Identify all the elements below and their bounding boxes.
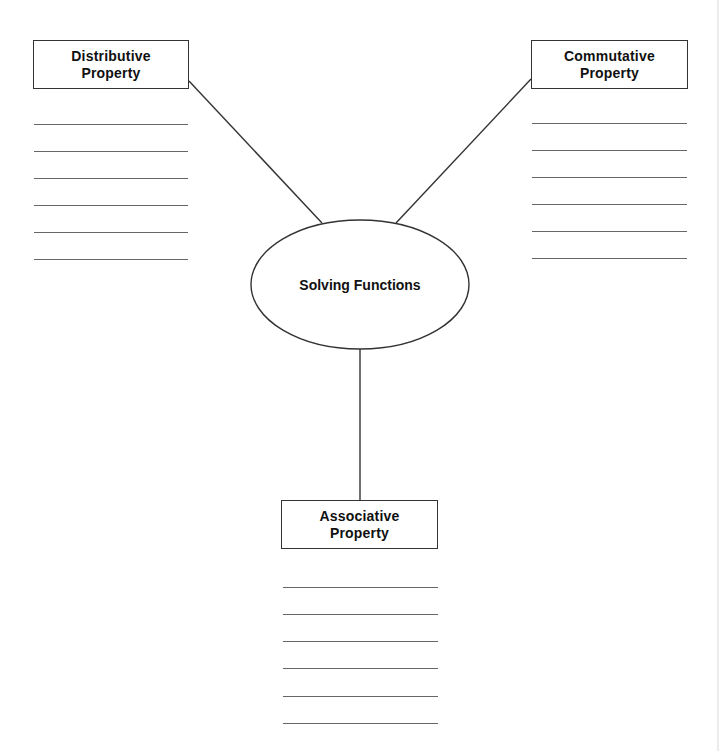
connector-commutative xyxy=(396,79,531,223)
answer-line[interactable] xyxy=(34,205,188,206)
answer-line[interactable] xyxy=(34,124,188,125)
answer-line[interactable] xyxy=(532,123,687,124)
answer-line[interactable] xyxy=(532,177,687,178)
answer-line[interactable] xyxy=(283,696,438,697)
answer-line[interactable] xyxy=(283,587,438,588)
answer-line[interactable] xyxy=(34,259,188,260)
answer-line[interactable] xyxy=(532,150,687,151)
node-commutative-box: Commutative Property xyxy=(531,40,688,89)
node-distributive-box: Distributive Property xyxy=(33,40,189,89)
node-associative-title-line2: Property xyxy=(330,525,389,542)
answer-line[interactable] xyxy=(532,231,687,232)
node-associative-box: Associative Property xyxy=(281,500,438,549)
answer-line[interactable] xyxy=(532,258,687,259)
answer-line[interactable] xyxy=(283,723,438,724)
center-label: Solving Functions xyxy=(251,220,469,349)
connector-distributive xyxy=(189,81,322,223)
answer-line[interactable] xyxy=(283,614,438,615)
node-associative-title-line1: Associative xyxy=(319,508,399,525)
node-distributive-title-line2: Property xyxy=(81,65,140,82)
answer-line[interactable] xyxy=(283,668,438,669)
answer-line[interactable] xyxy=(34,178,188,179)
node-commutative-title-line2: Property xyxy=(580,65,639,82)
node-commutative-title-line1: Commutative xyxy=(564,48,655,65)
answer-line[interactable] xyxy=(532,204,687,205)
answer-line[interactable] xyxy=(283,641,438,642)
diagram-connectors xyxy=(0,0,720,751)
node-distributive-title-line1: Distributive xyxy=(71,48,150,65)
answer-line[interactable] xyxy=(34,232,188,233)
answer-line[interactable] xyxy=(34,151,188,152)
